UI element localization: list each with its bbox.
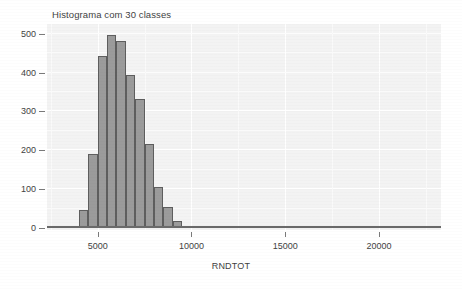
x-tick-mark — [379, 232, 380, 237]
histogram-bar — [126, 75, 135, 228]
histogram-bar — [116, 41, 125, 228]
histogram-bar — [79, 210, 88, 228]
x-tick-mark — [191, 232, 192, 237]
histogram-bar — [154, 187, 163, 228]
y-tick-mark — [39, 111, 45, 112]
histogram-bar — [107, 35, 116, 228]
y-axis: 0100200300400500 — [0, 24, 47, 230]
y-tick-label: 0 — [31, 223, 36, 233]
x-tick-label: 10000 — [179, 241, 204, 251]
plot-panel — [47, 24, 441, 230]
histogram-bars — [47, 24, 441, 230]
x-axis: 5000100001500020000 — [47, 230, 441, 256]
histogram-bar — [163, 207, 172, 228]
x-axis-title: RNDTOT — [0, 261, 462, 271]
histogram-figure: Histograma com 30 classes 01002003004005… — [0, 0, 462, 289]
y-tick-mark — [39, 228, 45, 229]
y-tick-mark — [39, 73, 45, 74]
y-tick-label: 100 — [21, 184, 36, 194]
histogram-bar — [88, 154, 97, 228]
y-tick-label: 200 — [21, 145, 36, 155]
y-tick-mark — [39, 189, 45, 190]
chart-title: Histograma com 30 classes — [52, 9, 171, 20]
histogram-bar — [135, 99, 144, 228]
y-tick-mark — [39, 34, 45, 35]
y-tick-mark — [39, 150, 45, 151]
y-tick-label: 500 — [21, 29, 36, 39]
x-tick-label: 15000 — [273, 241, 298, 251]
y-tick-label: 400 — [21, 68, 36, 78]
x-axis-baseline — [47, 226, 441, 228]
x-tick-label: 20000 — [367, 241, 392, 251]
x-tick-mark — [98, 232, 99, 237]
x-tick-label: 5000 — [88, 241, 108, 251]
x-tick-mark — [285, 232, 286, 237]
y-tick-label: 300 — [21, 106, 36, 116]
histogram-bar — [145, 144, 154, 228]
histogram-bar — [98, 56, 107, 228]
